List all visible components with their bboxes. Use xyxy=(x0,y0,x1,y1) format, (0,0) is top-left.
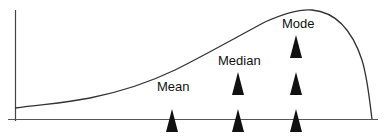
median-marker-icon xyxy=(232,72,244,95)
mean-axis-marker-icon xyxy=(166,109,178,132)
mode-marker-icon xyxy=(290,35,302,58)
mean-label: Mean xyxy=(157,79,190,94)
distribution-curve xyxy=(15,10,372,119)
median-label: Median xyxy=(218,53,261,68)
mode-label: Mode xyxy=(282,16,315,31)
mode-axis-marker-icon xyxy=(290,109,302,132)
median-axis-marker-icon xyxy=(232,109,244,132)
mode-mid-marker-icon xyxy=(290,72,302,95)
distribution-diagram xyxy=(0,0,385,139)
